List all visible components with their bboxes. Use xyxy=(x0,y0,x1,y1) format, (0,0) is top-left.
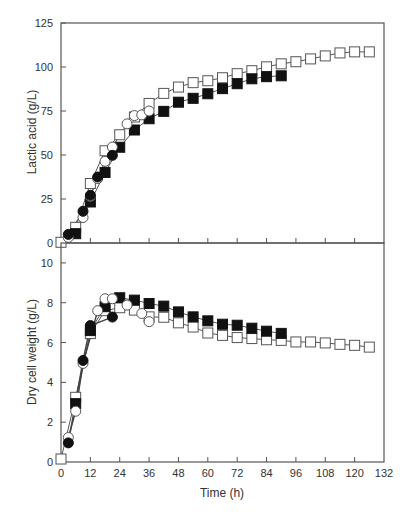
open-square-marker xyxy=(173,318,183,328)
x-tick-label: 108 xyxy=(316,467,334,479)
figure: 0255075100125 02468100122436486072849610… xyxy=(0,0,408,512)
dry-cell-weight-panel: 024681001224364860728496108120132 xyxy=(41,243,393,479)
y-tick-label: 2 xyxy=(47,416,53,428)
open-circle-marker xyxy=(144,317,154,327)
lactic-acid-panel: 0255075100125 xyxy=(35,17,384,249)
filled-circle-marker xyxy=(78,355,88,365)
open-square-marker xyxy=(232,69,242,79)
open-square-marker xyxy=(218,73,228,83)
open-square-marker xyxy=(320,338,330,348)
filled-circle-marker xyxy=(63,229,73,239)
y-tick-label: 10 xyxy=(41,257,53,269)
open-square-marker xyxy=(115,130,125,140)
filled-square-marker xyxy=(262,72,272,82)
chart-canvas: 0255075100125 02468100122436486072849610… xyxy=(0,0,408,512)
filled-square-marker xyxy=(203,316,213,326)
filled-square-marker xyxy=(203,89,213,99)
open-square-marker xyxy=(188,322,198,332)
filled-square-marker xyxy=(173,307,183,317)
open-circle-marker xyxy=(107,294,117,304)
open-square-marker xyxy=(247,334,257,344)
open-square-marker xyxy=(188,78,198,88)
y-tick-label: 75 xyxy=(41,105,53,117)
x-tick-label: 48 xyxy=(172,467,184,479)
x-tick-label: 60 xyxy=(202,467,214,479)
x-tick-label: 36 xyxy=(143,467,155,479)
open-square-marker xyxy=(350,340,360,350)
filled-square-marker xyxy=(232,320,242,330)
y-tick-label: 8 xyxy=(47,297,53,309)
filled-square-marker xyxy=(218,319,228,329)
filled-circle-marker xyxy=(85,190,95,200)
x-tick-label: 12 xyxy=(84,467,96,479)
filled-square-marker xyxy=(173,97,183,107)
x-tick-label: 72 xyxy=(231,467,243,479)
open-square-marker xyxy=(56,454,66,464)
open-circle-marker xyxy=(137,308,147,318)
open-square-marker xyxy=(364,342,374,352)
open-circle-marker xyxy=(71,406,81,416)
open-square-marker xyxy=(173,82,183,92)
open-square-marker xyxy=(335,339,345,349)
open-circle-marker xyxy=(144,106,154,116)
y-tick-label: 25 xyxy=(41,193,53,205)
y-tick-label: 50 xyxy=(41,149,53,161)
filled-square-marker xyxy=(276,71,286,81)
open-circle-marker xyxy=(122,119,132,129)
x-tick-label: 24 xyxy=(114,467,126,479)
open-square-marker xyxy=(291,337,301,347)
filled-square-marker xyxy=(188,93,198,103)
y-tick-label: 100 xyxy=(35,61,53,73)
open-square-marker xyxy=(291,57,301,67)
filled-circle-marker xyxy=(85,321,95,331)
y-tick-label: 4 xyxy=(47,376,53,388)
y-tick-label: 0 xyxy=(47,456,53,468)
top-y-axis-label: Lactic acid (g/L) xyxy=(25,90,39,175)
plot-frame xyxy=(61,243,384,462)
filled-square-marker xyxy=(262,326,272,336)
y-tick-label: 125 xyxy=(35,17,53,29)
filled-square-marker xyxy=(159,301,169,311)
open-square-marker xyxy=(159,312,169,322)
open-square-marker xyxy=(218,330,228,340)
filled-square-marker xyxy=(247,323,257,333)
open-square-marker xyxy=(203,76,213,86)
x-axis-label: Time (h) xyxy=(200,486,244,500)
filled-square-marker xyxy=(144,299,154,309)
open-square-marker xyxy=(232,333,242,343)
open-square-marker xyxy=(203,328,213,338)
y-tick-label: 6 xyxy=(47,337,53,349)
open-square-marker xyxy=(335,48,345,58)
filled-circle-marker xyxy=(93,172,103,182)
filled-circle-marker xyxy=(107,312,117,322)
open-square-marker xyxy=(159,88,169,98)
open-square-marker xyxy=(276,59,286,69)
bottom-y-axis-label: Dry cell weight (g/L) xyxy=(25,299,39,405)
open-square-marker xyxy=(306,337,316,347)
filled-square-marker xyxy=(276,328,286,338)
filled-square-marker xyxy=(159,106,169,116)
open-square-marker xyxy=(306,54,316,64)
filled-square-marker xyxy=(218,84,228,94)
series-line xyxy=(61,308,369,459)
filled-circle-marker xyxy=(78,206,88,216)
open-square-marker xyxy=(350,47,360,57)
open-circle-marker xyxy=(122,300,132,310)
x-tick-label: 84 xyxy=(260,467,272,479)
open-square-marker xyxy=(364,47,374,57)
open-square-marker xyxy=(262,62,272,72)
x-tick-label: 0 xyxy=(58,467,64,479)
x-tick-label: 120 xyxy=(345,467,363,479)
filled-circle-marker xyxy=(63,438,73,448)
open-square-marker xyxy=(320,51,330,61)
filled-circle-marker xyxy=(107,150,117,160)
filled-square-marker xyxy=(232,79,242,89)
x-tick-label: 96 xyxy=(290,467,302,479)
filled-square-marker xyxy=(247,74,257,84)
y-tick-label: 0 xyxy=(47,237,53,249)
x-tick-label: 132 xyxy=(375,467,393,479)
filled-square-marker xyxy=(188,312,198,322)
open-circle-marker xyxy=(93,306,103,316)
